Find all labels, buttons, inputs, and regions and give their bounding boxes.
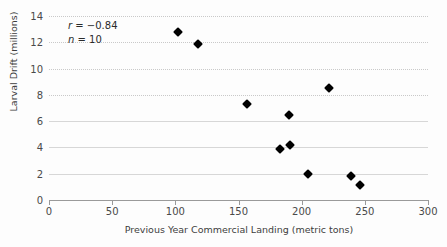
x-tick-label-150: 150: [229, 206, 248, 217]
y-axis-title: Larval Drift (millions): [8, 0, 19, 127]
x-tick-100: [175, 200, 176, 205]
sample-size-value: = 10: [78, 34, 102, 45]
x-tick-150: [239, 200, 240, 205]
scatter-plot-figure: 02468101214 050100150200250300 Previous …: [0, 0, 447, 247]
x-tick-200: [302, 200, 303, 205]
x-tick-label-100: 100: [166, 206, 185, 217]
x-tick-label-200: 200: [292, 206, 311, 217]
x-tick-50: [112, 200, 113, 205]
x-axis-title: Previous Year Commercial Landing (metric…: [49, 224, 429, 235]
x-tick-250: [365, 200, 366, 205]
x-tick-0: [49, 200, 50, 205]
statistics-annotation: r = −0.84 n = 10: [68, 19, 118, 47]
x-tick-label-300: 300: [418, 206, 437, 217]
correlation-symbol: r: [68, 20, 72, 31]
x-tick-label-0: 0: [46, 206, 52, 217]
correlation-annotation: r = −0.84: [68, 19, 118, 33]
sample-size-symbol: n: [68, 34, 74, 45]
x-tick-300: [428, 200, 429, 205]
sample-size-annotation: n = 10: [68, 33, 118, 47]
correlation-value: = −0.84: [75, 20, 117, 31]
x-tick-label-50: 50: [106, 206, 119, 217]
x-tick-label-250: 250: [355, 206, 374, 217]
